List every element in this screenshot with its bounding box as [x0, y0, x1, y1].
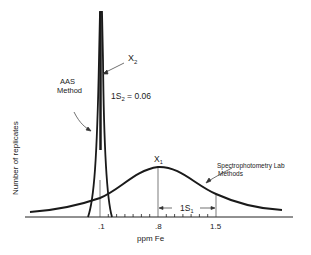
x-tick-label: 1.5 [210, 222, 222, 231]
s2-label: 1S2 = 0.06 [111, 91, 151, 102]
spectro-label-line2: Methods [218, 170, 244, 177]
x2-label: X2 [128, 53, 138, 65]
spectro-label-line1: Spectrophotometry Lab [217, 162, 285, 170]
chart-canvas: Number of replicates .1 .8 1.5 ppm Fe AA… [0, 0, 311, 255]
x1-label: X1 [154, 154, 163, 165]
x-axis-label: ppm Fe [137, 234, 165, 243]
aas-label-line1: AAS [60, 77, 75, 86]
y-axis-label: Number of replicates [11, 121, 20, 195]
x-tick-label: .1 [98, 222, 105, 231]
s1-label: 1S1 [180, 203, 193, 214]
spectro-curve [30, 167, 282, 212]
aas-label-line2: Method [57, 86, 82, 95]
x-tick-label: .8 [155, 222, 162, 231]
